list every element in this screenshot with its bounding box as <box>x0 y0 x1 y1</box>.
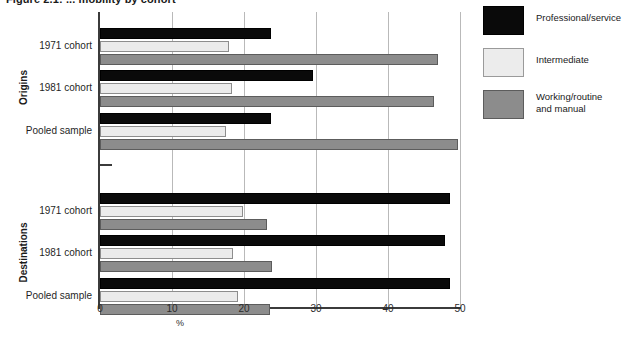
figure-root: Figure 2.1: ... mobility by cohort 01020… <box>0 0 631 342</box>
category-label-destinations-1981: 1981 cohort <box>2 247 92 258</box>
bar-destinations-1971-intermediate <box>100 206 243 217</box>
gridline-50 <box>460 12 461 307</box>
category-label-origins-1971: 1971 cohort <box>2 40 92 51</box>
bar-destinations-1981-intermediate <box>100 248 233 259</box>
bar-destinations-1971-working <box>100 219 267 230</box>
plot-area <box>100 12 460 307</box>
bar-origins-pooled-professional <box>100 113 271 124</box>
x-tick-label-50: 50 <box>454 303 465 314</box>
legend-swatch-professional <box>483 6 524 35</box>
bar-destinations-pooled-professional <box>100 278 450 289</box>
figure-title: Figure 2.1: ... mobility by cohort <box>6 0 176 5</box>
legend-label-intermediate: Intermediate <box>536 54 589 66</box>
axis-break-tick <box>100 164 112 166</box>
legend-row-intermediate[interactable]: Intermediate <box>483 48 628 90</box>
x-tick-label-20: 20 <box>238 303 249 314</box>
legend-swatch-intermediate <box>483 48 524 77</box>
x-tick-label-10: 10 <box>166 303 177 314</box>
category-label-origins-pooled: Pooled sample <box>2 125 92 136</box>
bar-origins-1981-intermediate <box>100 83 232 94</box>
legend-row-working[interactable]: Working/routine and manual <box>483 90 628 132</box>
x-tick-label-40: 40 <box>382 303 393 314</box>
bar-origins-pooled-working <box>100 139 458 150</box>
legend-row-professional[interactable]: Professional/service <box>483 6 628 48</box>
legend-label-working: Working/routine and manual <box>536 91 602 115</box>
bar-origins-1981-professional <box>100 70 313 81</box>
x-tick-label-0: 0 <box>97 303 103 314</box>
bar-origins-1981-working <box>100 96 434 107</box>
x-tick-label-30: 30 <box>310 303 321 314</box>
bar-origins-1971-professional <box>100 28 271 39</box>
bar-destinations-pooled-intermediate <box>100 291 238 302</box>
category-label-origins-1981: 1981 cohort <box>2 82 92 93</box>
category-label-destinations-1971: 1971 cohort <box>2 205 92 216</box>
bar-destinations-1971-professional <box>100 193 450 204</box>
group-label-origins: Origins <box>18 48 29 128</box>
bar-origins-1971-intermediate <box>100 41 229 52</box>
category-label-destinations-pooled: Pooled sample <box>2 290 92 301</box>
group-label-destinations: Destinations <box>18 213 29 293</box>
bar-destinations-1981-professional <box>100 235 445 246</box>
legend: Professional/serviceIntermediateWorking/… <box>483 6 628 132</box>
legend-label-professional: Professional/service <box>536 12 621 24</box>
bar-origins-1971-working <box>100 54 438 65</box>
x-axis-label: % <box>176 318 184 328</box>
bar-origins-pooled-intermediate <box>100 126 226 137</box>
bar-destinations-1981-working <box>100 261 272 272</box>
legend-swatch-working <box>483 90 524 119</box>
